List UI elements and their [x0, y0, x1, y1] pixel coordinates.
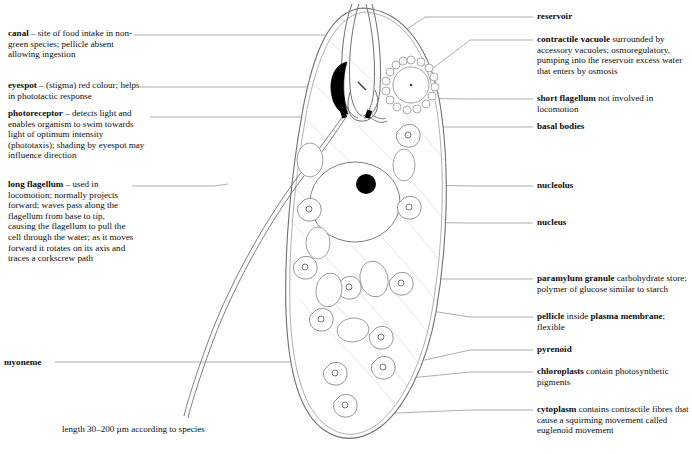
label-basal-bodies: basal bodies	[537, 121, 687, 132]
label-long-flagellum: long flagellum – used in locomotion; nor…	[8, 179, 134, 264]
label-chloroplasts: chloroplasts contain photosynthetic pigm…	[537, 366, 687, 387]
label-nucleolus-term: nucleolus	[537, 180, 573, 190]
label-pyrenoid: pyrenoid	[537, 344, 687, 355]
nucleolus	[356, 174, 376, 194]
label-nucleus: nucleus	[537, 217, 687, 228]
label-pyrenoid-term: pyrenoid	[537, 344, 572, 354]
label-chloroplasts-term: chloroplasts	[537, 366, 584, 376]
label-reservoir: reservoir	[537, 11, 689, 22]
label-nucleolus: nucleolus	[537, 180, 687, 191]
label-contractile-vacuole: contractile vacuole surrounded by access…	[537, 34, 689, 76]
label-canal-term: canal	[8, 28, 29, 38]
label-reservoir-term: reservoir	[537, 11, 572, 21]
label-paramylum-granule-term: paramylum granule	[537, 273, 615, 283]
label-long-flagellum-text: – used in locomotion; normally projects …	[8, 179, 133, 263]
label-photoreceptor: photoreceptor – detects light and enable…	[8, 108, 150, 161]
label-myoneme: myoneme	[4, 357, 64, 368]
label-myoneme-term: myoneme	[4, 357, 41, 367]
leader-longflag-b	[214, 184, 228, 186]
contractile-vacuole-center	[410, 84, 413, 87]
label-short-flagellum: short flagellum not involved in locomoti…	[537, 93, 687, 114]
label-cytoplasm: cytoplasm contains contractile fibres th…	[537, 404, 689, 436]
label-cytoplasm-term: cytoplasm	[537, 404, 576, 414]
label-photoreceptor-term: photoreceptor	[8, 108, 63, 118]
label-eyespot-term: eyespot	[8, 80, 37, 90]
label-nucleus-term: nucleus	[537, 217, 566, 227]
label-contractile-vacuole-term: contractile vacuole	[537, 34, 610, 44]
label-long-flagellum-term: long flagellum	[8, 179, 63, 189]
label-pellicle: pellicle inside plasma membrane; flexibl…	[537, 311, 687, 332]
figure-caption: length 30–200 µm according to species	[62, 424, 212, 435]
label-pellicle-term: pellicle	[537, 311, 564, 321]
label-paramylum-granule: paramylum granule carbohydrate store; po…	[537, 273, 690, 294]
label-eyespot: eyespot – (stigma) red colour; helps in …	[8, 80, 140, 101]
cell-body	[184, 4, 462, 440]
figure-canvas: canal – site of food intake in non-green…	[0, 0, 692, 454]
label-short-flagellum-term: short flagellum	[537, 93, 596, 103]
label-canal: canal – site of food intake in non-green…	[8, 28, 134, 60]
label-basal-bodies-term: basal bodies	[537, 121, 584, 131]
